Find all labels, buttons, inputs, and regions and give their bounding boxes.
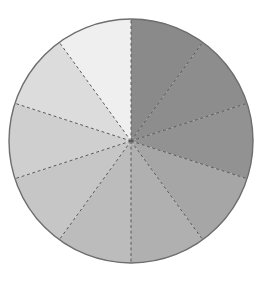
- pie-chart-canvas: [0, 0, 273, 282]
- pie-chart-figure: [0, 0, 273, 282]
